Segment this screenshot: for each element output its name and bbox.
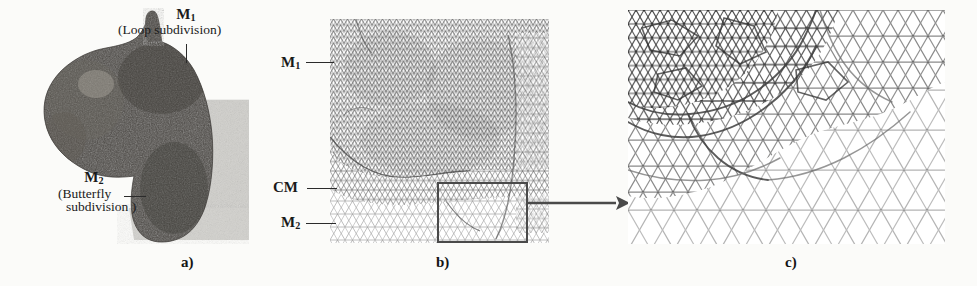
panel-b-label-m1: M1 — [281, 54, 300, 72]
panel-c-zoomed-mesh-detail — [628, 10, 945, 244]
panel-b-leader-m2 — [306, 223, 336, 224]
zoom-arrow — [526, 192, 630, 218]
panel-a-label-m1-note: (Loop subdivision) — [118, 22, 221, 37]
panel-b-label-m2: M2 — [281, 214, 300, 232]
panel-b-label-cm: CM — [273, 179, 298, 196]
panel-a-label-m2: M2 — [70, 169, 118, 187]
panel-c-caption: c) — [785, 254, 797, 271]
panel-b-leader-cm — [307, 188, 337, 189]
zoom-selection-box[interactable] — [437, 182, 528, 243]
figure-container: M1 (Loop subdivision) M2 (Butterfly subd… — [0, 0, 977, 286]
panel-b-caption: b) — [436, 254, 449, 271]
panel-a-leader-m1 — [186, 44, 187, 63]
panel-a-label-m2-note-2: subdivision ) — [66, 199, 136, 214]
panel-a-caption: a) — [181, 254, 194, 271]
panel-a-leader-m2 — [124, 196, 146, 197]
panel-a-label-m1: M1 — [154, 6, 218, 24]
panel-b-leader-m1 — [306, 62, 334, 63]
